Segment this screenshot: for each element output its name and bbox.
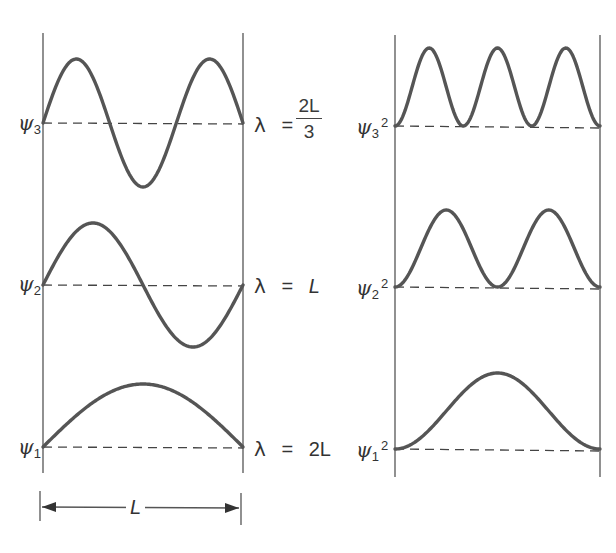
subscript: 1 — [372, 449, 379, 464]
dimension-label-L: L — [126, 497, 145, 517]
psi-symbol: ψ — [356, 438, 372, 462]
psi2-squared-curve — [395, 210, 600, 287]
psi3-axis — [43, 123, 243, 124]
lambda-symbol: λ — [254, 113, 266, 137]
subscript: 3 — [34, 122, 41, 137]
psi3-sq-axis — [395, 126, 600, 128]
subscript: 3 — [372, 126, 379, 141]
fraction-bar — [296, 118, 322, 119]
subscript: 2 — [34, 283, 41, 298]
wavelength-value: L — [309, 275, 320, 297]
subscript: 2 — [372, 287, 379, 302]
psi3-squared-curve — [395, 48, 600, 126]
wavelength-value: 2L — [309, 438, 331, 460]
psi-symbol: ψ — [18, 272, 34, 296]
psi-symbol: ψ — [18, 111, 34, 135]
wavelength-eq-1: λ = 2L — [254, 439, 331, 459]
psi3-squared-label: ψ32 — [356, 116, 388, 140]
psi-symbol: ψ — [18, 435, 34, 459]
arrowhead-left-icon — [42, 502, 56, 512]
wavelength-eq-3: λ = — [254, 115, 293, 135]
psi1-squared-curve — [395, 373, 600, 449]
psi-symbol: ψ — [356, 276, 372, 300]
psi1-axis — [43, 447, 243, 448]
psi-symbol: ψ — [356, 115, 372, 139]
psi2-label: ψ2 — [18, 274, 41, 297]
superscript: 2 — [381, 115, 388, 130]
equals-sign: = — [281, 438, 293, 460]
wavelength-fraction-3: 2L 3 — [296, 96, 322, 141]
psi2-curve — [43, 223, 243, 347]
wavelength-eq-2: λ = L — [254, 276, 320, 296]
fraction-numerator: 2L — [298, 96, 319, 115]
psi3-label: ψ3 — [18, 113, 41, 136]
psi3-curve — [43, 59, 243, 187]
lambda-symbol: λ — [254, 274, 266, 298]
superscript: 2 — [381, 438, 388, 453]
equals-sign: = — [281, 275, 293, 297]
psi1-sq-axis — [395, 449, 600, 451]
fraction-denominator: 3 — [304, 122, 315, 141]
superscript: 2 — [381, 276, 388, 291]
lambda-symbol: λ — [254, 437, 266, 461]
equals-sign: = — [281, 114, 293, 136]
psi1-curve — [43, 384, 243, 447]
arrowhead-right-icon — [225, 503, 239, 513]
psi1-squared-label: ψ12 — [356, 439, 388, 463]
psi1-label: ψ1 — [18, 437, 41, 460]
subscript: 1 — [34, 446, 41, 461]
psi2-squared-label: ψ22 — [356, 277, 388, 301]
